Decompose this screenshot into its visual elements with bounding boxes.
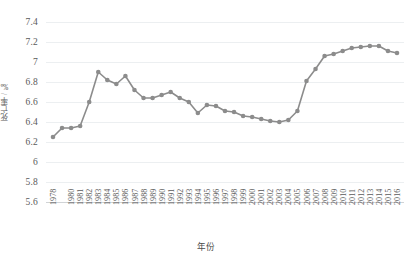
mortality-rate-line-chart: 死亡率 / ‰ 5.65.866.26.46.66.877.27.4 19781…: [0, 0, 412, 260]
x-axis-tick-label: 2016: [393, 189, 402, 205]
y-axis-tick-label: 7.2: [26, 37, 38, 47]
data-point: [51, 135, 56, 140]
data-point: [250, 115, 255, 120]
y-axis-tick-label: 6.2: [26, 137, 38, 147]
data-point: [295, 109, 300, 114]
data-point: [60, 126, 65, 131]
x-axis-tick-label: 1981: [76, 189, 85, 205]
y-axis-tick-label: 6.4: [26, 117, 38, 127]
data-point: [177, 96, 182, 101]
data-point: [186, 100, 191, 105]
y-axis-tick-label: 6.8: [26, 77, 38, 87]
data-point: [96, 70, 101, 75]
data-point: [313, 67, 318, 72]
series-line: [53, 46, 397, 137]
data-point: [69, 126, 74, 131]
y-axis-tick-label: 5.8: [26, 177, 38, 187]
data-point: [377, 44, 382, 49]
data-point: [386, 49, 391, 54]
x-axis-tick-label: 1983: [94, 189, 103, 205]
x-axis-tick-label: 1986: [121, 189, 130, 205]
y-axis-tick-label: 5.6: [26, 197, 38, 207]
x-axis-tick-label: 1996: [211, 189, 220, 205]
x-axis-title: 年份: [0, 240, 412, 252]
y-axis-tick-label: 7.4: [26, 17, 38, 27]
data-point: [123, 74, 128, 79]
x-axis-tick-label: 1999: [239, 189, 248, 205]
data-point: [304, 79, 309, 84]
x-axis-tick-label: 2008: [320, 189, 329, 205]
x-axis-tick-label: 1994: [193, 189, 202, 205]
x-axis-tick-label: 2003: [275, 189, 284, 205]
data-point: [159, 93, 164, 98]
data-point: [196, 111, 201, 116]
data-point: [395, 51, 400, 56]
x-axis-tick-label: 2014: [374, 189, 383, 205]
x-axis-tick-label: 2006: [302, 189, 311, 205]
plot-area: [46, 22, 404, 202]
data-point: [241, 114, 246, 119]
x-axis-tick-label: 2007: [311, 189, 320, 205]
data-point: [349, 46, 354, 51]
x-axis-tick-label: 2013: [365, 189, 374, 205]
x-axis-tick-label: 2002: [266, 189, 275, 205]
data-point: [105, 78, 110, 83]
x-axis-tick-label: 1990: [157, 189, 166, 205]
x-axis-tick-label: 1982: [85, 189, 94, 205]
data-point: [331, 52, 336, 57]
data-point: [322, 54, 327, 59]
data-point: [268, 119, 273, 124]
series-markers: [51, 44, 400, 140]
data-point: [368, 44, 373, 49]
x-axis-tick-label: 1995: [202, 189, 211, 205]
y-axis-tick-labels: 5.65.866.26.46.66.877.27.4: [0, 22, 42, 202]
x-axis-tick-label: 1984: [103, 189, 112, 205]
y-axis-tick-label: 6.6: [26, 97, 38, 107]
x-axis-tick-label: 1993: [184, 189, 193, 205]
x-axis-tick-label: 2005: [293, 189, 302, 205]
y-axis-tick-label: 7: [33, 57, 38, 67]
data-point: [87, 100, 92, 105]
y-axis-tick-label: 6: [33, 157, 38, 167]
x-axis-tick-label: 2001: [257, 189, 266, 205]
data-point: [78, 124, 83, 129]
data-point: [259, 117, 264, 122]
x-axis-tick-label: 2009: [329, 189, 338, 205]
data-point: [114, 82, 119, 87]
data-point: [132, 88, 137, 93]
x-axis-tick-label: 1978: [49, 189, 58, 205]
data-point: [141, 96, 146, 101]
data-point: [232, 110, 237, 115]
data-point: [205, 103, 210, 108]
mortality-series: [46, 22, 404, 202]
x-axis-tick-label: 1980: [67, 189, 76, 205]
x-axis-tick-label: 1987: [130, 189, 139, 205]
data-point: [223, 109, 228, 114]
x-axis-tick-label: 1988: [139, 189, 148, 205]
x-axis-tick-label: 2000: [248, 189, 257, 205]
data-point: [286, 118, 291, 123]
data-point: [358, 45, 363, 50]
x-axis-tick-label: 2015: [383, 189, 392, 205]
x-axis-tick-label: 1997: [221, 189, 230, 205]
x-axis-tick-label: 1992: [175, 189, 184, 205]
data-point: [214, 104, 219, 109]
data-point: [340, 49, 345, 54]
data-point: [277, 120, 282, 125]
x-axis-tick-label: 1991: [166, 189, 175, 205]
x-axis-tick-label: 2010: [338, 189, 347, 205]
x-axis-tick-label: 1998: [230, 189, 239, 205]
x-axis-tick-label: 2012: [356, 189, 365, 205]
x-axis-tick-label: 1989: [148, 189, 157, 205]
x-axis-tick-labels: 1978198019811982198319841985198619871988…: [46, 205, 404, 239]
data-point: [168, 90, 173, 95]
data-point: [150, 96, 155, 101]
x-axis-tick-label: 2011: [347, 189, 356, 205]
